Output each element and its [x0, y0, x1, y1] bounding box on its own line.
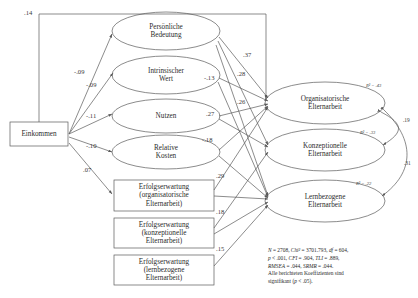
stats-cfi-symbol: CFI [289, 255, 298, 261]
stats-line-3: RMSEA = .044, SRMR = .044. [268, 263, 414, 271]
node-nutzen-shape [112, 99, 220, 133]
coef-erw-lern-to-outcome: .15 [216, 245, 224, 252]
coef-intrinsischer-to-outcome: -.13 [204, 74, 214, 81]
coef-erw-org-to-outcome: .29 [216, 172, 224, 179]
coef-persoenliche-to-konzeptionelle: .28 [237, 70, 245, 77]
path-extra-to-lernbezogene-b [214, 202, 268, 234]
path-kosten-to-organisatorische [219, 106, 268, 150]
node-erw-konz-shape [114, 218, 214, 248]
coef-einkommen-to-persoenliche: -.09 [74, 68, 84, 75]
r2-organisatorische: R² = .43 [366, 83, 381, 88]
corr-label-organisatorische-lernbezogene: .31 [404, 160, 411, 166]
coef-erw-konz-to-outcome: .18 [216, 208, 224, 215]
node-persoenliche-bedeutung-shape [112, 12, 220, 50]
coef-kosten-to-outcome: -.18 [202, 136, 212, 143]
coef-einkommen-to-intrinsischer: -.09 [86, 81, 96, 88]
node-einkommen-shape [10, 122, 68, 146]
coef-persoenliche-to-organisatorische: .37 [243, 51, 251, 58]
stats-tli-symbol: TLI [315, 255, 323, 261]
coef-einkommen-to-kosten: -.10 [86, 142, 96, 149]
coef-nutzen-to-outcome: .27 [206, 110, 214, 117]
node-konzeptionelle-elternarbeit-shape [265, 129, 385, 171]
stats-df-value: = 604, [333, 247, 348, 253]
model-fit-statistics: N = 2708, Chi² = 3701.793, df = 604, p <… [268, 247, 414, 286]
stats-chi2-symbol: Chi² [291, 247, 300, 253]
path-nutzen-to-organisatorische [219, 104, 268, 116]
coef-einkommen-to-organisatorische: .14 [24, 9, 32, 16]
coef-einkommen-to-erw-org: .07 [83, 166, 91, 173]
stats-sig-prefix: signifikant ( [268, 278, 294, 284]
stats-line-5: signifikant (p < .05). [268, 278, 414, 286]
stats-line-4: Alle berichteten Koeffizienten sind [268, 270, 414, 278]
stats-srmr-value: = .044. [317, 263, 334, 269]
coef-einkommen-to-nutzen: -.11 [86, 112, 96, 119]
path-nutzen-to-konzeptionelle [219, 119, 268, 147]
stats-line-2: p < .001, CFI = .904, TLI = .889, [268, 255, 414, 263]
node-erw-lern-shape [114, 255, 214, 285]
coef-persoenliche-to-lernbezogene: .26 [237, 98, 245, 105]
stats-n-value: = 2708, [272, 247, 291, 253]
sem-path-diagram: Einkommen Persönliche Bedeutung Intrinsi… [0, 0, 418, 298]
node-organisatorische-elternarbeit-shape [265, 82, 385, 124]
r2-konzeptionelle: R² = .33 [360, 130, 375, 135]
stats-tli-value: = .889, [323, 255, 340, 261]
path-persoenliche-to-organisatorische [219, 37, 268, 98]
stats-cfi-value: = .904, [297, 255, 315, 261]
stats-srmr-symbol: SRMR [303, 263, 317, 269]
stats-chi2-value: = 3701.793, [300, 247, 329, 253]
path-extra-to-lernbezogene-a [214, 196, 268, 199]
stats-line-1: N = 2708, Chi² = 3701.793, df = 604, [268, 247, 414, 255]
corr-label-organisatorische-konzeptionelle: .19 [403, 117, 410, 123]
correlation-organisatorische-konzeptionelle [381, 112, 399, 145]
stats-p-value: < .001, [271, 255, 289, 261]
node-erw-org-shape [114, 180, 214, 211]
stats-rmsea-symbol: RMSEA [268, 263, 285, 269]
node-lernbezogene-elternarbeit-shape [265, 180, 385, 222]
stats-rmsea-value: = .044, [285, 263, 303, 269]
stats-sig-suffix: < .05). [297, 278, 313, 284]
r2-lernbezogene: R² = .22 [356, 181, 371, 186]
path-erw-konz-to-konzeptionelle [214, 152, 268, 228]
